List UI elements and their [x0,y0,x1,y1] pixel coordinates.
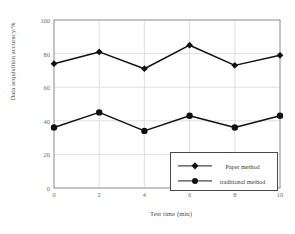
data-point-circle [277,113,283,119]
data-point-diamond [186,42,193,49]
data-point-circle [141,128,147,134]
legend-item-traditional-method: traditional method [171,173,277,189]
series-2 [51,109,283,134]
data-point-diamond [96,49,103,56]
data-point-diamond [51,60,58,67]
data-point-circle [186,113,192,119]
legend-item-label: traditional method [212,178,277,185]
series-1 [51,42,284,72]
chart-legend: Paper method traditional method [170,152,278,191]
data-point-diamond [277,52,284,59]
legend-item-label: Paper method [212,163,277,170]
data-point-circle [96,109,102,115]
legend-marker-circle-icon [178,175,212,187]
legend-marker-diamond-icon [178,160,212,172]
data-point-circle [232,124,238,130]
series-lines [51,42,284,134]
data-point-circle [51,124,57,130]
plot-area [0,0,295,234]
x-axis-title: Test time (min) [56,210,286,217]
data-point-diamond [141,65,148,72]
data-point-diamond [231,62,238,69]
legend-item-paper-method: Paper method [171,158,277,174]
chart-figure: Data acquisition accuracy/% 100 80 60 40… [0,0,295,234]
